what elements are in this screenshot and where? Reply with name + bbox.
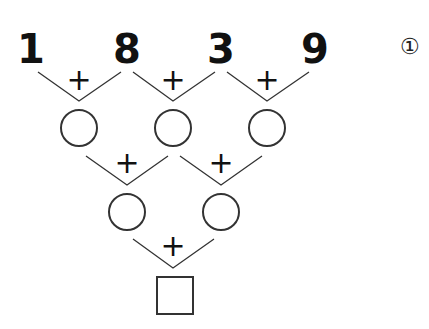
plus-sign: + <box>208 145 233 180</box>
top-number-3: 3 <box>207 26 235 72</box>
answer-circle-2-2[interactable] <box>203 194 239 230</box>
final-answer-square[interactable] <box>157 277 193 314</box>
top-number-4: 9 <box>301 26 329 72</box>
top-number-1: 1 <box>17 26 45 72</box>
answer-circle-1-1[interactable] <box>61 110 97 146</box>
plus-sign: + <box>160 228 185 263</box>
plus-sign: + <box>114 145 139 180</box>
plus-sign: + <box>254 62 279 97</box>
plus-sign: + <box>160 62 185 97</box>
answer-circle-1-2[interactable] <box>155 110 191 146</box>
answer-circle-1-3[interactable] <box>249 110 285 146</box>
addition-pyramid-diagram: 1 8 3 9 ① + + + + + + <box>0 0 429 329</box>
problem-number-label: ① <box>400 34 420 59</box>
answer-circle-2-1[interactable] <box>109 194 145 230</box>
top-number-2: 8 <box>113 26 141 72</box>
plus-sign: + <box>66 62 91 97</box>
